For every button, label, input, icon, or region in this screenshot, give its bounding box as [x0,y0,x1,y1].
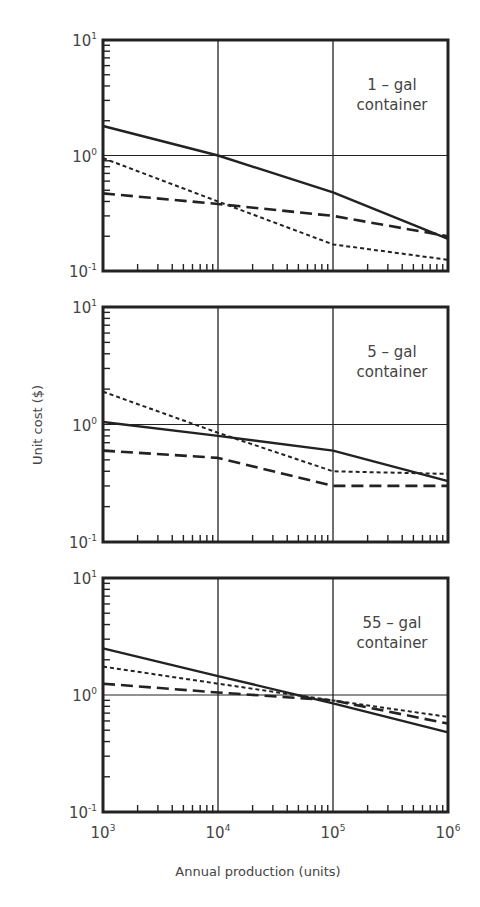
series-line-solid [103,648,448,732]
series-line-long-dashed [103,193,448,236]
y-axis-title: Unit cost ($) [30,385,45,465]
y-tick-label: 10-1 [69,533,97,552]
x-tick-label: 106 [436,823,461,842]
panel-label: 55 – galcontainer [356,614,428,652]
y-tick-label: 100 [72,686,97,705]
panel-2: 10110010-15 – galcontainer [69,298,448,552]
y-tick-label: 101 [72,569,97,588]
y-tick-label: 100 [72,147,97,166]
y-tick-label: 101 [72,298,97,317]
panel-label: 5 – galcontainer [356,343,428,381]
series-line-solid [103,126,448,239]
y-tick-label: 10-1 [69,803,97,822]
x-tick-label: 104 [206,823,231,842]
panel-3: 10110010-155 – galcontainer [69,569,448,822]
x-tick-label: 103 [91,823,116,842]
x-tick-labels: 103104105106 [91,823,461,842]
panel-label: 1 – galcontainer [356,76,428,114]
panel-1: 10110010-11 – galcontainer [69,31,448,281]
x-axis-title: Annual production (units) [175,864,340,879]
panels: 10110010-11 – galcontainer10110010-15 – … [69,31,448,822]
y-tick-label: 10-1 [69,262,97,281]
y-tick-label: 101 [72,31,97,50]
series-line-short-dashed [103,667,448,717]
y-tick-label: 100 [72,416,97,435]
chart-figure: 10110010-11 – galcontainer10110010-15 – … [0,0,480,907]
series-line-short-dashed [103,392,448,474]
x-tick-label: 105 [321,823,346,842]
